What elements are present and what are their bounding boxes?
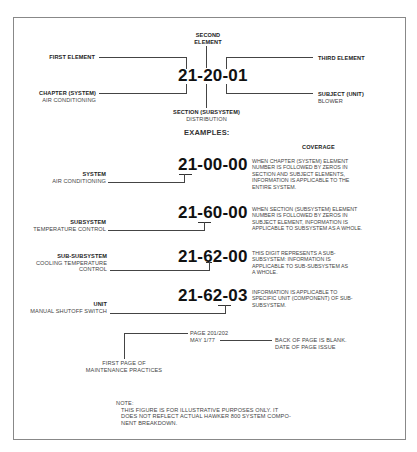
second-element-line2: ELEMENT [180,39,236,46]
first-element-leader-h [99,57,186,58]
second-element-line1: SECOND [180,32,236,39]
example-label-title: SUB-SUBSYSTEM [10,253,107,260]
coverage-line: INFORMATION IS APPLICABLE TO THE [252,177,349,183]
section-label: SECTION (SUBSYSTEM) DISTRIBUTION [165,109,248,122]
page-number: PAGE 201/202 [190,330,228,337]
example-code-system: 21-00-00 [178,156,248,174]
date-issue-line: DATE OF PAGE ISSUE [275,344,347,351]
chapter-leader-h [99,93,186,94]
example-label-sub: CONTROL [10,266,107,273]
coverage-system: WHEN CHAPTER (SYSTEM) ELEMENT NUMBER IS … [252,158,349,190]
coverage-line: A WHOLE. [252,269,348,275]
subject-sub: BLOWER [318,98,364,105]
coverage-sub-subsystem: THIS DIGIT REPRESENTS A SUB- SUBSYSTEM: … [252,250,348,276]
coverage-heading: COVERAGE [302,144,335,151]
section-title: SECTION (SUBSYSTEM) [165,109,248,116]
example-label-unit: UNIT MANUAL SHUTOFF SWITCH [10,301,107,314]
example-label-sub-subsystem: SUB-SUBSYSTEM COOLING TEMPERATURE CONTRO… [10,253,107,273]
section-sub: DISTRIBUTION [165,116,248,123]
coverage-line: SPECIFIC UNIT (COMPONENT) OF SUB- [252,295,353,301]
third-element-leader-v [226,57,227,69]
example-label-sub: TEMPERATURE CONTROL [10,226,106,233]
example-label-sub: COOLING TEMPERATURE [10,260,107,267]
example-label-system: SYSTEM AIR CONDITIONING [20,171,106,184]
subject-label: SUBJECT (UNIT) BLOWER [318,91,364,104]
back-of-page-label: BACK OF PAGE IS BLANK. DATE OF PAGE ISSU… [275,337,347,350]
example-leader-h-system [108,182,185,183]
first-page-leader-h [124,333,188,334]
page-info: PAGE 201/202 MAY 1/77 [190,330,228,343]
note-title: NOTE: [116,400,291,407]
example-leader-h-subsystem [108,230,205,231]
section-leader [206,84,207,108]
note-line: NENT BREAKDOWN. [116,420,291,427]
coverage-unit: INFORMATION IS APPLICABLE TO SPECIFIC UN… [252,289,353,308]
coverage-line: APPLICABLE TO SUBSYSTEM AS A WHOLE. [252,225,362,231]
example-leader-h-unit [110,313,226,314]
example-code-subsystem: 21-60-00 [178,204,248,222]
example-label-title: SYSTEM [20,171,106,178]
example-code-unit: 21-62-03 [178,287,248,305]
first-page-line: FIRST PAGE OF [76,360,172,367]
example-label-title: UNIT [10,301,107,308]
first-element-label: FIRST ELEMENT [30,54,95,61]
first-page-label: FIRST PAGE OF MAINTENANCE PRACTICES [76,360,172,373]
chapter-sub: AIR CONDITIONING [20,97,96,104]
chapter-leader-v [186,84,187,94]
note-line: DOES NOT REFLECT ACTUAL HAWKER 800 SYSTE… [116,413,291,420]
maintenance-practices-line: MAINTENANCE PRACTICES [76,367,172,374]
example-leader-h-sub-subsystem [110,270,210,271]
example-code-sub-subsystem: 21-62-00 [178,248,248,266]
second-element-label: SECOND ELEMENT [180,32,236,45]
example-label-sub: AIR CONDITIONING [20,178,106,185]
coverage-line: SUBSYSTEM. [252,302,353,308]
subject-leader-h [226,93,313,94]
coverage-line: NUMBER IS FOLLOWED BY ZEROS IN [252,212,362,218]
example-label-subsystem: SUBSYSTEM TEMPERATURE CONTROL [10,219,106,232]
coverage-line: NUMBER IS FOLLOWED BY ZEROS IN [252,164,349,170]
main-code: 21-20-01 [178,67,248,85]
subject-title: SUBJECT (UNIT) [318,91,364,98]
back-of-page-line: BACK OF PAGE IS BLANK. [275,337,347,344]
first-page-leader-v [124,333,125,359]
example-label-title: SUBSYSTEM [10,219,106,226]
note-line: THIS FIGURE IS FOR ILLUSTRATIVE PURPOSES… [116,407,291,414]
example-underline-system [179,174,192,175]
chapter-title: CHAPTER (SYSTEM) [20,90,96,97]
example-label-sub: MANUAL SHUTOFF SWITCH [10,308,107,315]
date-leader-h [220,340,272,341]
third-element-label: THIRD ELEMENT [318,55,365,62]
second-element-leader [206,46,207,68]
coverage-subsystem: WHEN SECTION (SUBSYSTEM) ELEMENT NUMBER … [252,206,362,232]
note: NOTE: THIS FIGURE IS FOR ILLUSTRATIVE PU… [116,400,291,426]
chapter-label: CHAPTER (SYSTEM) AIR CONDITIONING [20,90,96,103]
coverage-line: ENTIRE SYSTEM. [252,184,349,190]
examples-heading: EXAMPLES: [184,128,230,137]
third-element-leader-h [226,57,313,58]
